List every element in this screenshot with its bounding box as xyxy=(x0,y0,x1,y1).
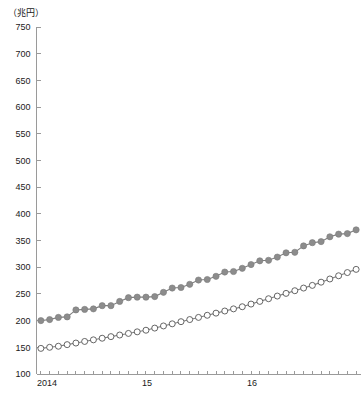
y-tick-label: 550 xyxy=(15,129,30,139)
data-point-series-open xyxy=(90,337,96,343)
data-point-series-filled xyxy=(134,294,140,300)
y-tick-label: 500 xyxy=(15,156,30,166)
data-point-series-open xyxy=(55,343,61,349)
y-tick-label: 250 xyxy=(15,289,30,299)
y-tick-label: 350 xyxy=(15,236,30,246)
data-point-series-open xyxy=(301,285,307,291)
data-point-series-filled xyxy=(204,276,210,282)
data-point-series-open xyxy=(222,308,228,314)
data-point-series-open xyxy=(178,319,184,325)
data-point-series-filled xyxy=(257,258,263,264)
data-point-series-filled xyxy=(73,307,79,313)
x-tick-label: 16 xyxy=(247,378,257,388)
data-point-series-open xyxy=(266,296,272,302)
y-tick-label: 450 xyxy=(15,182,30,192)
data-point-series-open xyxy=(117,332,123,338)
data-point-series-open xyxy=(99,335,105,341)
data-point-series-filled xyxy=(327,234,333,240)
data-point-series-open xyxy=(239,304,245,310)
data-point-series-open xyxy=(160,323,166,329)
data-point-series-open xyxy=(82,338,88,344)
data-point-series-filled xyxy=(292,249,298,255)
data-point-series-filled xyxy=(160,289,166,295)
data-point-series-filled xyxy=(213,273,219,279)
data-point-series-open xyxy=(125,330,131,336)
data-point-series-filled xyxy=(318,239,324,245)
data-point-series-open xyxy=(292,288,298,294)
data-point-series-filled xyxy=(38,318,44,324)
data-point-series-open xyxy=(213,310,219,316)
data-point-series-open xyxy=(327,276,333,282)
y-tick-label: 100 xyxy=(15,369,30,379)
data-point-series-open xyxy=(73,340,79,346)
data-point-series-open xyxy=(257,298,263,304)
data-point-series-filled xyxy=(300,243,306,249)
data-point-series-open xyxy=(108,334,114,340)
series-line-series-filled xyxy=(41,230,356,321)
data-point-series-open xyxy=(204,312,210,318)
data-point-series-filled xyxy=(55,314,61,320)
data-point-series-open xyxy=(152,325,158,331)
data-point-series-filled xyxy=(222,269,228,275)
x-tick-label: 15 xyxy=(142,378,152,388)
data-point-series-open xyxy=(318,279,324,285)
data-point-series-filled xyxy=(274,254,280,260)
data-point-series-filled xyxy=(344,231,350,237)
data-point-series-open xyxy=(38,345,44,351)
data-point-series-filled xyxy=(99,303,105,309)
data-point-series-open xyxy=(187,317,193,323)
y-tick-label: 750 xyxy=(15,22,30,32)
x-tick-label: 2014 xyxy=(37,378,57,388)
data-point-series-open xyxy=(196,314,202,320)
data-point-series-open xyxy=(274,293,280,299)
data-point-series-open xyxy=(336,273,342,279)
line-chart-plot: 7507006506005505004504003503002502001501… xyxy=(0,0,363,402)
data-point-series-filled xyxy=(336,231,342,237)
data-point-series-filled xyxy=(248,261,254,267)
y-tick-label: 400 xyxy=(15,209,30,219)
data-point-series-open xyxy=(169,321,175,327)
chart-container: （兆円） 75070065060055050045040035030025020… xyxy=(0,0,363,402)
data-point-series-filled xyxy=(195,277,201,283)
data-point-series-open xyxy=(47,344,53,350)
data-point-series-filled xyxy=(169,285,175,291)
y-tick-label: 300 xyxy=(15,262,30,272)
y-tick-label: 600 xyxy=(15,102,30,112)
data-point-series-open xyxy=(143,327,149,333)
data-point-series-open xyxy=(309,282,315,288)
y-tick-label: 650 xyxy=(15,76,30,86)
data-point-series-open xyxy=(248,301,254,307)
data-point-series-filled xyxy=(64,314,70,320)
data-point-series-filled xyxy=(90,306,96,312)
data-point-series-filled xyxy=(117,298,123,304)
data-point-series-filled xyxy=(230,268,236,274)
data-point-series-open xyxy=(353,266,359,272)
data-point-series-filled xyxy=(47,316,53,322)
y-tick-label: 200 xyxy=(15,316,30,326)
data-point-series-filled xyxy=(178,284,184,290)
data-point-series-open xyxy=(231,306,237,312)
data-point-series-filled xyxy=(152,293,158,299)
data-point-series-filled xyxy=(309,240,315,246)
data-point-series-filled xyxy=(265,257,271,263)
data-point-series-filled xyxy=(353,227,359,233)
data-point-series-filled xyxy=(125,295,131,301)
data-point-series-filled xyxy=(82,306,88,312)
data-point-series-open xyxy=(283,290,289,296)
y-tick-label: 700 xyxy=(15,49,30,59)
data-point-series-filled xyxy=(187,281,193,287)
data-point-series-open xyxy=(344,270,350,276)
data-point-series-filled xyxy=(283,250,289,256)
data-point-series-filled xyxy=(239,265,245,271)
data-point-series-filled xyxy=(143,294,149,300)
data-point-series-open xyxy=(64,342,70,348)
data-point-series-open xyxy=(134,329,140,335)
y-tick-label: 150 xyxy=(15,343,30,353)
data-point-series-filled xyxy=(108,303,114,309)
